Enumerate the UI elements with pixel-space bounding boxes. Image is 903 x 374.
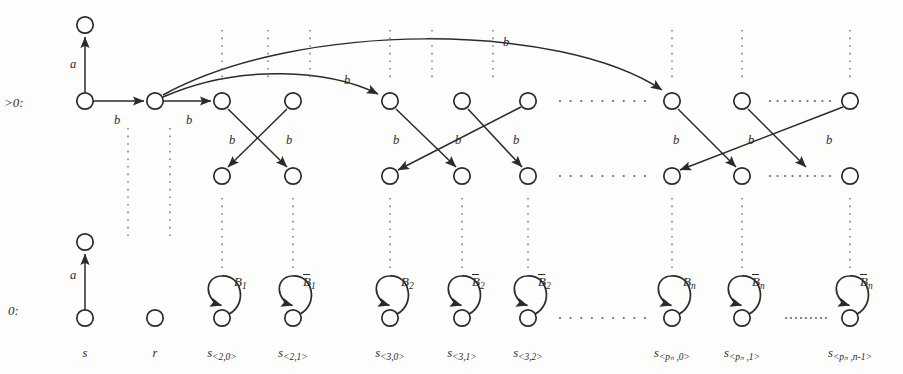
ellipsis-dot: [814, 175, 816, 177]
ellipsis-dot: [785, 317, 787, 319]
ellipsis-dot: [580, 175, 582, 177]
state-node: [664, 93, 680, 109]
state-label: r: [153, 346, 158, 361]
state-label: s<3,1>: [447, 346, 477, 362]
ellipsis-dot: [623, 100, 625, 102]
state-node: [285, 168, 301, 184]
state-node: [664, 168, 680, 184]
edge-label: a: [70, 57, 76, 72]
edge-label: b: [114, 113, 120, 128]
edge-b-cross-2a: [396, 109, 456, 167]
ellipsis-dot: [580, 100, 582, 102]
ellipsis-dot: [633, 100, 635, 102]
ellipsis-dot: [570, 175, 572, 177]
ellipsis-dot: [633, 317, 635, 319]
state-node: [734, 168, 750, 184]
self-loop-label: Bn: [683, 274, 696, 291]
ellipsis-dot: [806, 100, 808, 102]
ellipsis-dot: [591, 175, 593, 177]
edge-label: b: [513, 133, 519, 148]
ellipsis-dot: [644, 317, 646, 319]
state-node: [734, 93, 750, 109]
state-node: [520, 168, 536, 184]
ellipsis-dot: [570, 317, 572, 319]
ellipsis-dot: [784, 175, 786, 177]
state-label: s<2,1>: [278, 346, 308, 362]
ellipsis-dot: [633, 175, 635, 177]
edge-b-cross-3c: [680, 107, 843, 170]
ellipsis-dot: [580, 317, 582, 319]
ellipsis-dot: [805, 317, 807, 319]
edge-label: b: [826, 133, 832, 148]
state-node: [842, 168, 858, 184]
edge-label: b: [748, 133, 754, 148]
bottom-row-nodes: [77, 310, 163, 326]
edge-b-arc-far: [163, 39, 662, 95]
state-node: [285, 310, 301, 326]
ellipsis-dot: [821, 175, 823, 177]
ellipsis-dot: [644, 175, 646, 177]
edge-label: b: [186, 113, 192, 128]
ellipsis-dot: [810, 317, 812, 319]
ellipsis-dot: [601, 100, 603, 102]
ellipsis-dot: [791, 175, 793, 177]
state-label: s<pₙ ,0>: [654, 346, 690, 362]
state-label: s<3,2>: [513, 346, 543, 362]
ellipsis-dot: [790, 317, 792, 319]
ellipsis-dot: [769, 100, 771, 102]
ellipsis-dot: [806, 175, 808, 177]
state-node: [214, 168, 230, 184]
self-loop-label: B2: [538, 274, 551, 291]
edge-label: b: [673, 133, 679, 148]
state-node: [285, 93, 301, 109]
row-label: 0:: [8, 303, 19, 319]
ellipsis-dot: [559, 175, 561, 177]
edge-label: b: [393, 133, 399, 148]
ellipsis-dot: [591, 100, 593, 102]
edge-label: b: [344, 73, 350, 88]
ellipsis-dot: [612, 175, 614, 177]
ellipsis-dot: [612, 317, 614, 319]
state-node: [382, 93, 398, 109]
state-node: [382, 310, 398, 326]
ellipsis-dot: [612, 100, 614, 102]
state-node: [382, 168, 398, 184]
self-loop-label: Bn: [752, 274, 765, 291]
node-accept-top: [77, 17, 93, 33]
state-node: [842, 310, 858, 326]
ellipsis-dot: [815, 317, 817, 319]
state-label: s<3,0>: [375, 346, 405, 362]
ellipsis-dot: [829, 100, 831, 102]
ellipsis-dot: [776, 100, 778, 102]
ellipsis-dot: [776, 175, 778, 177]
edge-label: b: [455, 133, 461, 148]
state-node: [147, 310, 163, 326]
state-node: [454, 93, 470, 109]
ellipsis-dot: [800, 317, 802, 319]
state-node: [664, 310, 680, 326]
ellipsis-dot: [591, 317, 593, 319]
state-node: [214, 310, 230, 326]
edge-b-cross-3b: [748, 109, 806, 167]
row-label: >0:: [4, 95, 24, 111]
figure-canvas: >0:0:abbbbbbbbbbbbaB1B1B2B2B2BnBnBnsrs<2…: [0, 0, 903, 374]
state-node: [842, 93, 858, 109]
state-label: s<pₙ ,n-1>: [828, 346, 872, 362]
self-loop-label: B2: [472, 274, 485, 291]
state-node: [520, 93, 536, 109]
ellipsis-dot: [795, 317, 797, 319]
state-node: [520, 310, 536, 326]
ellipsis-dot: [821, 100, 823, 102]
diagram-vector-layer: [0, 0, 903, 374]
ellipsis-dot: [820, 317, 822, 319]
state-node: [454, 310, 470, 326]
node-accept-bottom: [77, 234, 93, 250]
ellipsis-dot: [559, 100, 561, 102]
state-label: s<pₙ ,1>: [724, 346, 760, 362]
ellipsis-dot: [601, 175, 603, 177]
ellipsis-dot: [799, 175, 801, 177]
edge-label: a: [70, 268, 76, 283]
self-loop-label: B1: [303, 274, 316, 291]
edge-label: b: [503, 35, 509, 50]
state-node: [77, 93, 93, 109]
